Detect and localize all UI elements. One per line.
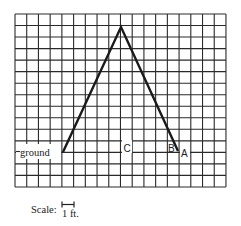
grid-diagram: ground C B A Scale: 1 ft. — [0, 0, 241, 226]
scale-label: Scale: — [31, 204, 57, 215]
point-b-label: B — [168, 143, 175, 154]
ground-label: ground — [20, 147, 50, 158]
grid — [15, 14, 226, 187]
scale-bar-icon — [62, 202, 74, 208]
point-c-label: C — [124, 143, 131, 154]
point-a-label: A — [181, 148, 188, 159]
scale-unit-label: 1 ft. — [62, 208, 79, 219]
